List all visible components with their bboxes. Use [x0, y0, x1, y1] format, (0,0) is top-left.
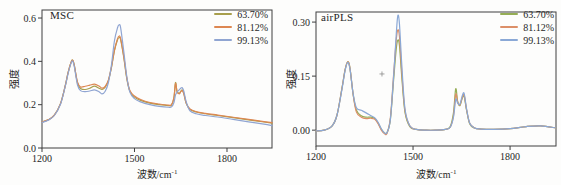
- msc-x-axis-label: 波数/cm-1: [42, 166, 272, 181]
- msc-legend: 63.70% 81.12% 99.13%: [214, 8, 268, 46]
- legend-label: 81.12%: [523, 22, 554, 33]
- y-tick-label: 0.2: [24, 99, 37, 110]
- x-tick-label: 1500: [124, 153, 144, 164]
- legend-entry: 63.70%: [500, 8, 554, 20]
- msc-chart-title: MSC: [50, 9, 74, 21]
- airpls-x-axis-label: 波数/cm-1: [316, 166, 556, 181]
- x-tick-label: 1200: [306, 151, 326, 162]
- y-tick-label: 0.6: [24, 13, 37, 24]
- y-tick-label: 0.0: [24, 143, 37, 154]
- msc-y-axis-label: 强度: [6, 49, 20, 109]
- y-tick-label: 0.00: [293, 125, 311, 136]
- legend-entry: 81.12%: [500, 21, 554, 33]
- x-tick-label: 1500: [403, 151, 423, 162]
- x-tick-label: 1200: [32, 153, 52, 164]
- airpls-panel: 1200150018000.000.150.30 airPLS 强度 波数/cm…: [280, 0, 561, 185]
- legend-label: 63.70%: [523, 9, 554, 20]
- x-tick-label: 1800: [500, 151, 520, 162]
- legend-entry: 81.12%: [214, 21, 268, 33]
- legend-label: 81.12%: [237, 22, 268, 33]
- legend-line-swatch: [214, 13, 232, 15]
- legend-line-swatch: [214, 39, 232, 41]
- legend-line-swatch: [214, 26, 232, 28]
- x-tick-label: 1800: [217, 153, 237, 164]
- msc-panel: 1200150018000.00.20.40.6 MSC 强度 波数/cm-1 …: [0, 0, 280, 185]
- legend-line-swatch: [500, 13, 518, 15]
- legend-line-swatch: [500, 39, 518, 41]
- legend-label: 99.13%: [523, 35, 554, 46]
- legend-entry: 99.13%: [500, 34, 554, 46]
- dual-spectra-figure: 1200150018000.00.20.40.6 MSC 强度 波数/cm-1 …: [0, 0, 561, 185]
- legend-label: 99.13%: [237, 35, 268, 46]
- y-tick-label: 0.4: [24, 56, 37, 67]
- legend-entry: 99.13%: [214, 34, 268, 46]
- legend-label: 63.70%: [237, 9, 268, 20]
- airpls-y-axis-label: 强度: [283, 49, 297, 109]
- legend-entry: 63.70%: [214, 8, 268, 20]
- airpls-legend: 63.70% 81.12% 99.13%: [500, 8, 554, 46]
- airpls-chart-title: airPLS: [321, 11, 353, 23]
- y-tick-label: 0.30: [293, 17, 311, 28]
- legend-line-swatch: [500, 26, 518, 28]
